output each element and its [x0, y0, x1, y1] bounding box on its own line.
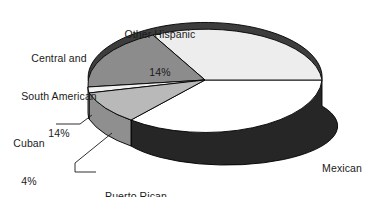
- label-puerto-rican-name: Puerto Rican: [97, 190, 175, 197]
- label-central-south-american-name-2: South American: [4, 90, 114, 103]
- label-cuban-name: Cuban: [2, 137, 56, 150]
- label-mexican: Mexican 67%: [312, 137, 372, 197]
- label-other-hispanic: Other Hispanic 14%: [110, 3, 210, 103]
- label-other-hispanic-name: Other Hispanic: [110, 28, 210, 41]
- label-other-hispanic-value: 14%: [110, 66, 210, 79]
- label-puerto-rican: Puerto Rican 9%: [97, 165, 175, 197]
- label-central-south-american-name-1: Central and: [4, 52, 114, 65]
- label-cuban-value: 4%: [2, 175, 56, 188]
- pie-chart-figure: Other Hispanic 14% Central and South Ame…: [0, 0, 374, 197]
- label-cuban: Cuban 4%: [2, 112, 56, 197]
- label-mexican-name: Mexican: [312, 162, 372, 175]
